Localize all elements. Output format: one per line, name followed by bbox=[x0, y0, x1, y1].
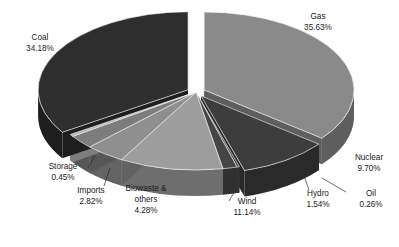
pie-chart-figure: Gas35.63%Nuclear9.70%Oil0.26%Hydro1.54%W… bbox=[0, 0, 399, 247]
pie-slice-side-oil bbox=[237, 167, 239, 193]
pie-chart-svg: Gas35.63%Nuclear9.70%Oil0.26%Hydro1.54%W… bbox=[0, 0, 399, 247]
